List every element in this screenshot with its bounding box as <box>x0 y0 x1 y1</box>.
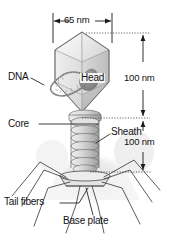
sheath-label: Sheath <box>111 127 142 137</box>
tail-fibers-label: Tail fibers <box>4 197 44 207</box>
base-plate-label: Base plate <box>63 216 108 226</box>
tail-sheath <box>71 117 99 173</box>
core-label: Core <box>8 119 29 129</box>
head-width-dimension-label: 65 nm <box>64 15 89 25</box>
dna-leader <box>31 78 44 85</box>
bacteriophage-diagram: 65 nm 100 nm 100 nm DNA Head Core Sheath… <box>0 0 178 235</box>
head-height-dimension-label: 100 nm <box>124 73 155 83</box>
head-label: Head <box>80 73 105 83</box>
dna-label: DNA <box>8 72 29 82</box>
tail-height-dimension-label: 100 nm <box>124 137 155 147</box>
